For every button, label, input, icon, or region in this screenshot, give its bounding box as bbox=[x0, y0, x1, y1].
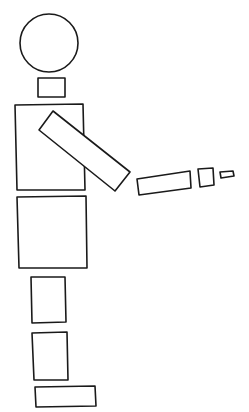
finger-rect bbox=[220, 171, 234, 178]
upper-leg-rect bbox=[31, 277, 66, 323]
hips-rect bbox=[17, 196, 87, 268]
neck-rect bbox=[38, 78, 65, 97]
lower-leg-rect bbox=[32, 332, 68, 380]
head-circle bbox=[20, 14, 78, 72]
foot-rect bbox=[35, 386, 96, 407]
forearm-rect bbox=[137, 171, 191, 195]
hand-rect bbox=[198, 168, 214, 187]
robot-figure bbox=[0, 0, 249, 412]
